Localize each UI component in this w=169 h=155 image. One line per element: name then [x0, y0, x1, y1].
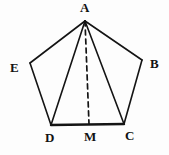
edge-DE — [30, 63, 51, 125]
diagonal-AC — [85, 21, 124, 124]
vertex-label-c: C — [125, 129, 134, 142]
edge-CD — [51, 124, 124, 125]
edge-BC — [124, 60, 142, 124]
vertex-label-m: M — [84, 130, 96, 143]
vertex-label-e: E — [10, 61, 19, 74]
vertex-label-b: B — [150, 57, 159, 70]
edge-EA — [30, 21, 85, 63]
diagonal-AD — [51, 21, 85, 125]
edge-AB — [85, 21, 142, 60]
pentagon-diagram: A B C D E M — [0, 0, 169, 155]
vertex-label-a: A — [80, 1, 89, 14]
vertex-label-d: D — [45, 131, 54, 144]
median-AM — [85, 21, 89, 124]
